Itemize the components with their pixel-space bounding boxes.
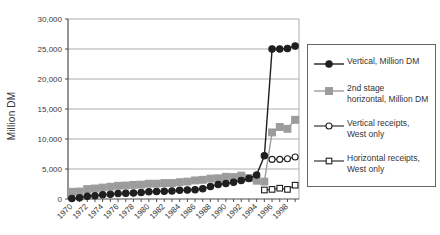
legend-label: 2nd stage horizontal, Million DM — [347, 83, 428, 105]
svg-text:1976: 1976 — [102, 202, 121, 221]
legend-item-vertical: Vertical, Million DM — [314, 56, 432, 70]
svg-text:10,000: 10,000 — [38, 135, 63, 144]
svg-text:1996: 1996 — [256, 202, 275, 221]
filled-square-line-icon — [314, 85, 344, 97]
legend-label: Vertical receipts, West only — [347, 118, 409, 140]
open-square-line-icon — [314, 155, 344, 167]
x-axis-ticks-labels: 1970197219741976197819801982198419861988… — [55, 199, 295, 221]
svg-text:15,000: 15,000 — [38, 105, 63, 114]
y-axis-ticks-labels: 05,00010,00015,00020,00025,00030,000 — [38, 15, 68, 204]
svg-text:1980: 1980 — [132, 202, 151, 221]
svg-text:1988: 1988 — [194, 202, 213, 221]
svg-text:1986: 1986 — [179, 202, 198, 221]
svg-text:1982: 1982 — [148, 202, 167, 221]
svg-text:5,000: 5,000 — [42, 165, 63, 174]
svg-text:30,000: 30,000 — [38, 15, 63, 24]
chart-figure: Million DM 05,00010,00015,00020,00025,00… — [0, 0, 440, 235]
legend: Vertical, Million DM 2nd stage horizonta… — [307, 44, 436, 187]
svg-text:1990: 1990 — [209, 202, 228, 221]
svg-text:1994: 1994 — [240, 202, 259, 221]
series-vertical-receipts-west — [269, 154, 298, 162]
svg-text:1998: 1998 — [271, 202, 290, 221]
svg-text:25,000: 25,000 — [38, 45, 63, 54]
svg-text:1972: 1972 — [71, 202, 90, 221]
legend-label: Vertical, Million DM — [347, 56, 419, 67]
legend-label: Horizontal receipts, West only — [347, 153, 420, 175]
open-circle-line-icon — [314, 120, 344, 132]
legend-item-horizontal-receipts: Horizontal receipts, West only — [314, 153, 432, 175]
svg-text:1978: 1978 — [117, 202, 136, 221]
gridlines — [68, 19, 299, 199]
svg-text:1984: 1984 — [163, 202, 182, 221]
svg-text:1970: 1970 — [55, 202, 74, 221]
legend-item-second-stage-horizontal: 2nd stage horizontal, Million DM — [314, 83, 432, 105]
filled-circle-line-icon — [314, 58, 344, 70]
svg-text:0: 0 — [58, 195, 63, 204]
svg-text:1974: 1974 — [86, 202, 105, 221]
legend-item-vertical-receipts: Vertical receipts, West only — [314, 118, 432, 140]
svg-text:1992: 1992 — [225, 202, 244, 221]
svg-text:20,000: 20,000 — [38, 75, 63, 84]
